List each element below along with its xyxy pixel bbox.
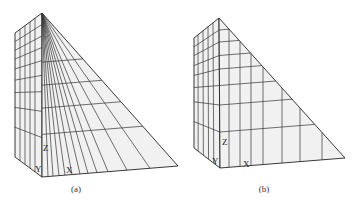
figure-b-rectilinear-grid-wedge: Z Y X (b): [194, 18, 345, 194]
front-face: [42, 13, 178, 177]
axis-label-z: Z: [222, 137, 228, 147]
axis-label-x: X: [243, 159, 250, 169]
axis-label-y: Y: [35, 164, 42, 174]
figure-caption: (b): [259, 184, 270, 194]
figure-caption: (a): [71, 184, 81, 194]
axis-label-x: X: [66, 165, 73, 175]
axis-label-z: Z: [43, 143, 49, 153]
figure-a-radial-grid-wedge: Z Y X (a): [15, 13, 178, 194]
axis-label-y: Y: [212, 156, 219, 166]
perspective-grid-figure: Z Y X (a) Z Y X (b): [0, 0, 357, 207]
side-face: [15, 13, 42, 177]
